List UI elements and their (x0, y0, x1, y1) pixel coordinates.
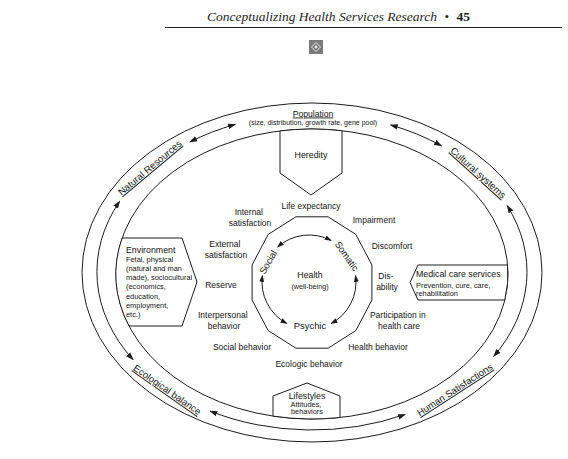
outcome-reserve: Reserve (205, 280, 237, 290)
page-number: 45 (457, 9, 471, 24)
outcome-line: behavior (208, 321, 241, 331)
environment-line: (natural and man (126, 264, 182, 273)
outcome-participation: Participation in health care (370, 310, 428, 331)
running-header: Conceptualizing Health Services Research… (207, 9, 470, 24)
header-separator: • (444, 9, 449, 24)
arrow-natural-resources-population (190, 124, 235, 141)
dimension-social: Social (257, 248, 279, 276)
outcome-internal-satisfaction: Internal satisfaction (229, 207, 272, 228)
health-title: Health (297, 270, 323, 280)
heredity-box: Heredity (280, 129, 342, 195)
environment-line: (economics, (126, 282, 166, 291)
lifestyles-box: Lifestyles Attitudes, behaviors (273, 383, 340, 419)
outcome-line: satisfaction (205, 250, 248, 260)
health-services-diagram: Conceptualizing Health Services Research… (0, 0, 568, 459)
dimension-somatic: Somatic (333, 239, 362, 273)
label-ecological-balance: Ecological balance (131, 362, 203, 417)
outcome-line: satisfaction (229, 218, 272, 228)
medical-care-title: Medical care services (416, 269, 501, 279)
label-cultural-systems: Cultural systems (448, 145, 508, 201)
heredity-title: Heredity (295, 150, 328, 160)
arrow-social-somatic (278, 235, 332, 247)
outcome-line: Participation in (370, 310, 426, 320)
environment-line: education, (126, 292, 160, 301)
outcome-social-behavior: Social behavior (213, 342, 271, 352)
outcome-line: Dis- (378, 271, 393, 281)
medical-care-line: rehabilitation (416, 289, 458, 298)
label-human-satisfactions: Human Satisfactions (415, 361, 495, 418)
outcome-impairment: Impairment (353, 215, 396, 225)
dimension-psychic: Psychic (294, 320, 327, 331)
medical-care-box: Medical care services Prevention, cure, … (410, 265, 508, 300)
arrow-population-cultural-systems (391, 125, 442, 146)
lifestyles-description: Attitudes, behaviors (291, 400, 324, 417)
outcome-life-expectancy: Life expectancy (281, 201, 341, 211)
arrow-psychic-social (262, 276, 287, 324)
outcome-line: health care (378, 321, 420, 331)
population-subtitle: (size, distribution, growth rate, gene p… (249, 119, 377, 127)
arrow-somatic-psychic (331, 276, 356, 324)
outcome-interpersonal-behavior: Interpersonal behavior (198, 310, 250, 331)
outcome-line: Interpersonal (198, 310, 248, 320)
outcome-disability: Dis- ability (376, 271, 398, 292)
environment-line: made), sociocultural (126, 273, 192, 282)
environment-line: Fetal, physical (126, 255, 174, 264)
environment-title: Environment (126, 245, 176, 255)
environment-line: etc.) (126, 310, 140, 319)
health-subtitle: (well-being) (291, 282, 328, 291)
environment-box: Environment Fetal, physical (natural and… (116, 238, 197, 326)
outcome-line: Internal (235, 207, 263, 217)
ornament-icon (309, 40, 323, 54)
outcome-external-satisfaction: External satisfaction (205, 239, 248, 260)
outcome-discomfort: Discomfort (372, 241, 413, 251)
outcome-health-behavior: Health behavior (348, 342, 408, 352)
header-title: Conceptualizing Health Services Research (207, 9, 437, 24)
environment-line: employment, (126, 301, 168, 310)
population-title: Population (293, 109, 334, 119)
lifestyles-line: behaviors (291, 407, 323, 416)
outcome-ecologic-behavior: Ecologic behavior (275, 359, 342, 369)
outcome-line: External (209, 239, 240, 249)
outcome-line: ability (376, 282, 398, 292)
label-natural-resources: Natural Resources (116, 138, 184, 198)
